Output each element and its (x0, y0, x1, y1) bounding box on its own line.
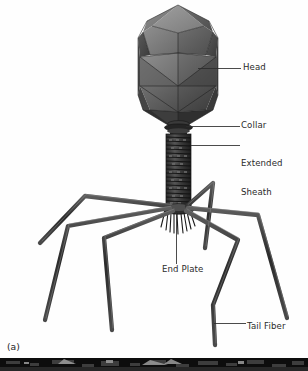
label-collar: Collar (241, 121, 266, 131)
tail-fiber-mid-right (188, 208, 287, 318)
bottom-micrograph-strip (0, 358, 308, 371)
phage-extended-sheath (166, 134, 191, 207)
phage-collar (165, 121, 193, 134)
label-end-plate: End Plate (162, 265, 203, 275)
label-extended-sheath-line2: Sheath (241, 188, 283, 198)
label-extended-sheath: Extended Sheath (241, 140, 283, 217)
micrograph-texture (0, 358, 308, 371)
figure-page: Head Collar Extended Sheath End Plate Ta… (0, 0, 308, 371)
label-tail-fiber: Tail Fiber (247, 322, 286, 332)
phage-figure-stage: Head Collar Extended Sheath End Plate Ta… (0, 0, 308, 358)
label-extended-sheath-line1: Extended (241, 159, 283, 169)
panel-letter: (a) (7, 341, 20, 352)
tail-fiber-front-right (186, 211, 238, 345)
label-head: Head (243, 63, 266, 73)
